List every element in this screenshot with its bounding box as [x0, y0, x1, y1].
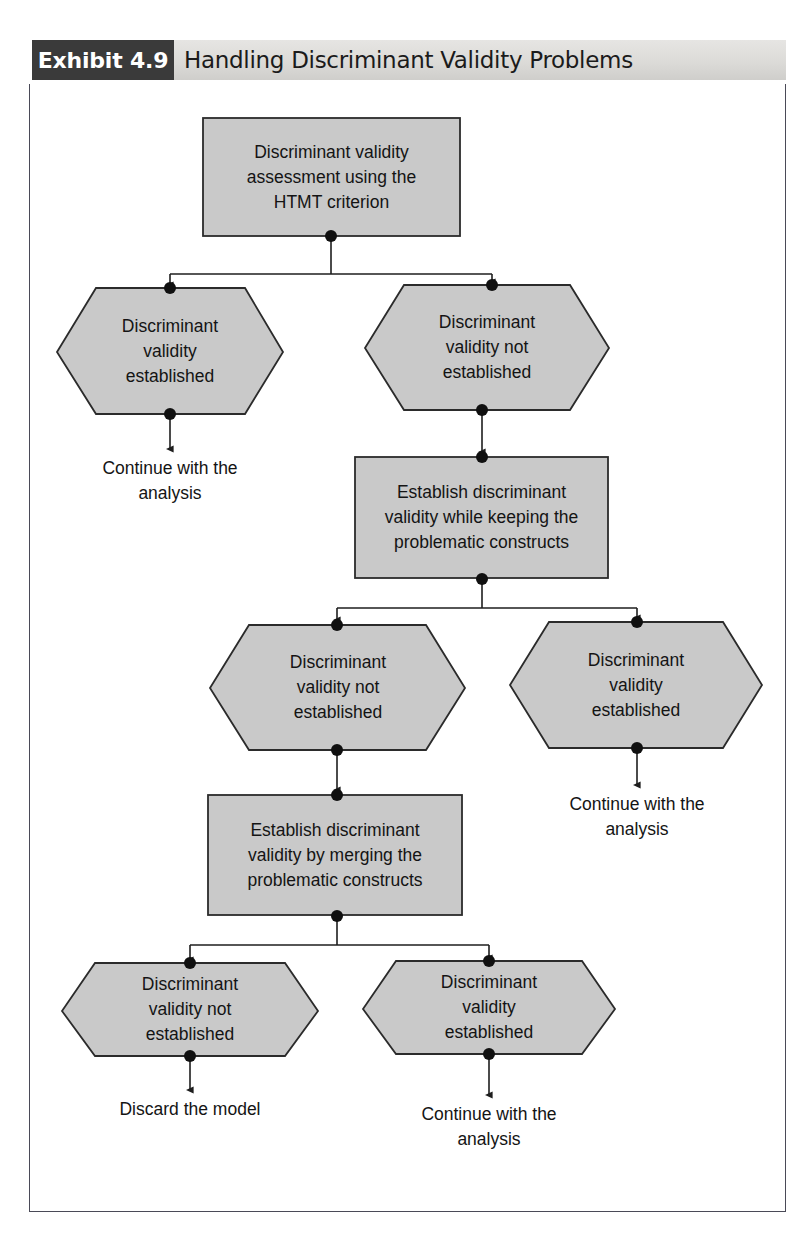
exhibit-title: Handling Discriminant Validity Problems	[184, 40, 633, 80]
flow-terminal-label-2: Continue with the analysis	[527, 792, 747, 842]
flow-node-label-1: Discriminant validity assessment using t…	[203, 118, 460, 236]
flow-node-label-8: Discriminant validity not established	[80, 963, 300, 1056]
flow-node-label-6: Discriminant validity established	[528, 622, 744, 748]
flow-node-label-2: Discriminant validity established	[70, 288, 270, 414]
flow-terminal-label-1: Continue with the analysis	[60, 456, 280, 506]
exhibit-header: Exhibit 4.9 Handling Discriminant Validi…	[32, 40, 786, 80]
exhibit-figure: Exhibit 4.9 Handling Discriminant Validi…	[0, 0, 807, 1247]
flow-node-label-4: Establish discriminant validity while ke…	[355, 457, 608, 578]
flow-terminal-label-3: Discard the model	[80, 1097, 300, 1122]
exhibit-number-tag: Exhibit 4.9	[32, 40, 174, 80]
flow-terminal-label-4: Continue with the analysis	[379, 1102, 599, 1152]
flow-node-label-7: Establish discriminant validity by mergi…	[208, 795, 462, 915]
flow-node-label-5: Discriminant validity not established	[228, 625, 448, 750]
flow-node-label-3: Discriminant validity not established	[382, 285, 592, 410]
flow-node-label-9: Discriminant validity established	[381, 961, 597, 1054]
